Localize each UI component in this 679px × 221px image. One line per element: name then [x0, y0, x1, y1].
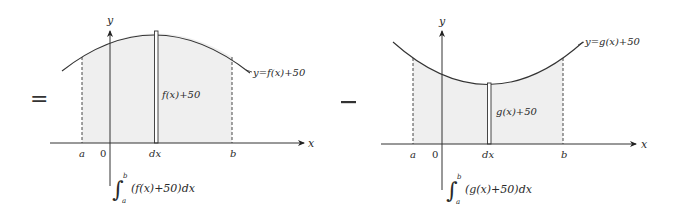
left-integral-lower: a	[122, 197, 126, 205]
right-y-axis-label: y	[438, 15, 446, 28]
left-x-axis-label: x	[308, 137, 315, 150]
right-curve-label: y=g(x)+50	[584, 36, 641, 47]
right-tick-dx: dx	[482, 149, 494, 160]
minus-sign	[341, 101, 356, 103]
left-tick-origin: 0	[100, 148, 106, 159]
left-integral-body: (f(x)+50)dx	[131, 182, 196, 195]
right-strip-dx	[488, 83, 492, 144]
left-tick-dx: dx	[149, 148, 161, 159]
left-integral-expression: ∫ b a (f(x)+50)dx	[112, 172, 196, 205]
left-tick-a: a	[79, 148, 85, 159]
right-tick-a: a	[410, 149, 416, 160]
left-strip-dx	[155, 31, 159, 143]
left-curve-label: y=f(x)+50	[252, 67, 306, 78]
right-tick-origin: 0	[432, 149, 438, 160]
left-panel: = x y a 0 dx b y=f(x)+50 f(x)+50 ∫ b a	[30, 14, 315, 205]
right-x-axis-label: x	[641, 138, 648, 151]
right-curve-leader	[578, 42, 584, 45]
right-tick-b: b	[561, 149, 567, 160]
area-difference-diagram: = x y a 0 dx b y=f(x)+50 f(x)+50 ∫ b a	[0, 0, 679, 221]
right-integral-lower: a	[456, 198, 460, 206]
right-strip-label: g(x)+50	[496, 106, 538, 117]
left-strip-label: f(x)+50	[161, 89, 201, 100]
right-integral-upper: b	[457, 173, 462, 181]
left-tick-b: b	[230, 148, 236, 159]
right-integral-body: (g(x)+50)dx	[465, 183, 533, 196]
left-integral-upper: b	[123, 172, 128, 180]
left-y-axis-label: y	[106, 14, 114, 27]
right-integral-expression: ∫ b a (g(x)+50)dx	[446, 173, 533, 206]
equals-sign: =	[30, 86, 48, 111]
